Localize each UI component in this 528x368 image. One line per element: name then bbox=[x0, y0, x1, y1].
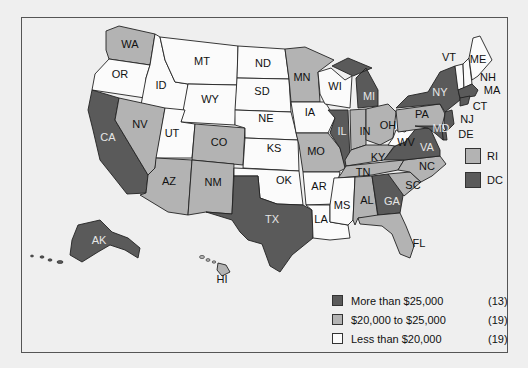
ri-label: RI bbox=[487, 150, 498, 162]
legend: More than $25,000 (13) $20,000 to $25,00… bbox=[332, 291, 518, 348]
legend-count: (13) bbox=[488, 295, 518, 307]
legend-label: More than $25,000 bbox=[351, 295, 488, 307]
state-FL bbox=[358, 213, 414, 258]
label-NY: NY bbox=[432, 86, 448, 98]
inset-DC: DC bbox=[465, 172, 503, 188]
ri-swatch bbox=[465, 148, 481, 164]
label-LA: LA bbox=[314, 213, 328, 225]
state-NY bbox=[396, 66, 460, 112]
label-IA: IA bbox=[305, 106, 316, 118]
label-VT: VT bbox=[442, 51, 456, 63]
label-OK: OK bbox=[276, 174, 293, 186]
legend-label: $20,000 to $25,000 bbox=[351, 314, 488, 326]
label-CO: CO bbox=[211, 136, 228, 148]
label-AR: AR bbox=[311, 180, 326, 192]
dc-swatch bbox=[465, 172, 481, 188]
label-OH: OH bbox=[380, 119, 397, 131]
label-IL: IL bbox=[337, 125, 346, 137]
label-WY: WY bbox=[201, 93, 219, 105]
label-NH: NH bbox=[480, 71, 496, 83]
label-TX: TX bbox=[265, 213, 280, 225]
inset-RI: RI bbox=[465, 148, 498, 164]
label-GA: GA bbox=[384, 195, 401, 207]
label-NJ: NJ bbox=[460, 113, 473, 125]
legend-label: Less than $20,000 bbox=[351, 333, 488, 345]
legend-count: (19) bbox=[488, 333, 518, 345]
label-CT: CT bbox=[473, 100, 488, 112]
label-MI: MI bbox=[363, 90, 375, 102]
label-MO: MO bbox=[307, 145, 325, 157]
label-MT: MT bbox=[194, 55, 210, 67]
label-ND: ND bbox=[255, 57, 271, 69]
label-SD: SD bbox=[254, 85, 269, 97]
label-ME: ME bbox=[470, 53, 487, 65]
label-NM: NM bbox=[204, 176, 221, 188]
label-MA: MA bbox=[484, 84, 501, 96]
label-TN: TN bbox=[356, 166, 371, 178]
aleutian-islands bbox=[31, 255, 64, 264]
legend-item-low: Less than $20,000 (19) bbox=[332, 329, 518, 348]
label-WV: WV bbox=[397, 136, 415, 148]
label-MD: MD bbox=[432, 122, 449, 134]
label-MN: MN bbox=[293, 71, 310, 83]
label-PA: PA bbox=[415, 108, 430, 120]
label-DE: DE bbox=[458, 128, 473, 140]
label-WI: WI bbox=[328, 80, 341, 92]
legend-swatch-low bbox=[332, 333, 343, 344]
legend-item-high: More than $25,000 (13) bbox=[332, 291, 518, 310]
label-MS: MS bbox=[334, 199, 351, 211]
label-WA: WA bbox=[121, 38, 139, 50]
state-CT bbox=[460, 96, 470, 106]
label-AL: AL bbox=[360, 194, 373, 206]
label-KS: KS bbox=[267, 142, 282, 154]
label-IN: IN bbox=[360, 125, 371, 137]
label-NE: NE bbox=[258, 112, 273, 124]
label-VA: VA bbox=[420, 141, 435, 153]
legend-swatch-mid bbox=[332, 314, 343, 325]
label-CA: CA bbox=[100, 131, 116, 143]
label-SC: SC bbox=[405, 179, 420, 191]
label-AZ: AZ bbox=[162, 175, 176, 187]
label-HI: HI bbox=[217, 273, 228, 285]
label-FL: FL bbox=[413, 237, 426, 249]
legend-swatch-high bbox=[332, 295, 343, 306]
label-AK: AK bbox=[92, 234, 107, 246]
label-NC: NC bbox=[419, 160, 435, 172]
label-KY: KY bbox=[371, 151, 386, 163]
legend-count: (19) bbox=[488, 314, 518, 326]
legend-item-mid: $20,000 to $25,000 (19) bbox=[332, 310, 518, 329]
label-ID: ID bbox=[156, 79, 167, 91]
label-UT: UT bbox=[165, 127, 180, 139]
label-OR: OR bbox=[112, 68, 129, 80]
label-NV: NV bbox=[132, 118, 148, 130]
dc-label: DC bbox=[487, 174, 503, 186]
